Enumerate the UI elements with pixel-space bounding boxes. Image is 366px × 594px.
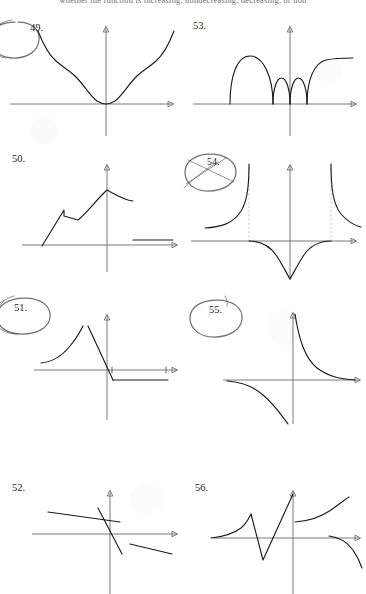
curve-52-segment-left	[48, 512, 120, 522]
curve-54-right-branch	[331, 164, 361, 227]
curve-52-segment-right	[130, 544, 172, 554]
exercise-panel-50: 50.	[0, 148, 183, 272]
curve-56-left-rise	[211, 514, 251, 538]
exercise-number-56: 56.	[195, 482, 208, 493]
pen-circle-49	[0, 16, 56, 64]
curve-56-v-dip	[251, 494, 293, 560]
axes-52	[32, 490, 178, 594]
graph-56	[183, 472, 366, 594]
exercise-panel-52: 52.	[0, 472, 183, 594]
page-running-header: whether the function is increasing, nond…	[0, 0, 366, 7]
curve-53-arch-large	[230, 56, 273, 104]
pen-circle-55	[187, 294, 249, 342]
curve-55-branch-q3	[227, 381, 288, 424]
curve-56-right-branch	[329, 536, 362, 568]
curve-51-decreasing-line	[88, 326, 113, 380]
exercise-panel-49: 49.	[0, 14, 183, 136]
exercise-panel-51: 51.	[0, 292, 183, 420]
exercise-number-50: 50.	[12, 153, 25, 164]
graph-53	[183, 14, 366, 136]
curve-53-asymptotic-tail	[307, 58, 353, 104]
pen-circle-54	[182, 150, 242, 196]
curve-56-upper-branch	[295, 497, 349, 522]
curve-50-main	[42, 190, 133, 246]
exercise-panel-53: 53.	[183, 14, 366, 136]
axes-50	[22, 164, 178, 272]
curve-53-arch-small-1	[273, 78, 290, 104]
exercise-number-53: 53.	[193, 20, 206, 31]
axes-53	[193, 26, 357, 136]
pen-circle-51	[0, 294, 60, 338]
graph-52	[0, 472, 183, 594]
exercise-panel-56: 56.	[183, 472, 366, 594]
axes-56	[213, 490, 361, 594]
curve-53-arch-small-2	[290, 78, 307, 104]
curve-55-branch-q1	[295, 314, 355, 380]
graph-50	[0, 148, 183, 272]
exercise-number-52: 52.	[12, 482, 25, 493]
exercise-panel-55: 55.	[183, 292, 366, 424]
exercise-panel-54: 54.	[183, 148, 366, 280]
